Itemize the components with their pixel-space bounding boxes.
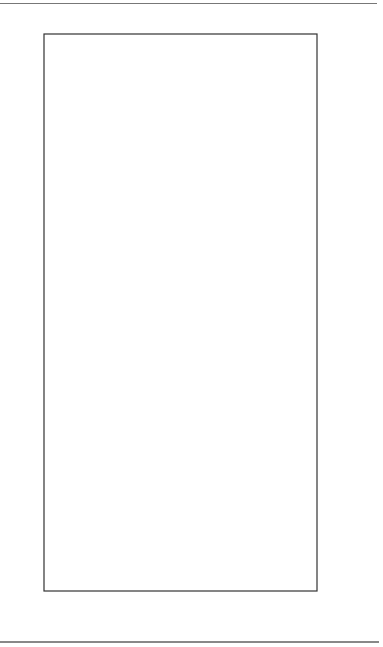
line-chart bbox=[0, 0, 383, 647]
plot-frame bbox=[44, 34, 317, 591]
